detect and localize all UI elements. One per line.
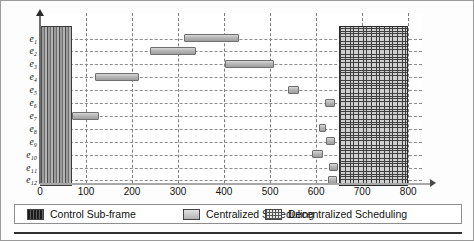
centralized-bar-e6 (325, 99, 335, 107)
plot-area (40, 13, 422, 183)
control-sub-frame-block (40, 26, 72, 186)
y-axis-arrow-icon (36, 9, 44, 16)
legend-entry-0: Control Sub-frame (27, 208, 136, 220)
legend-entry-2: Decentralized Scheduling (265, 208, 407, 220)
figure-frame: 0100200300400500600700800 e₁e₂e₃e₄e₅e₆e₇… (0, 0, 474, 241)
centralized-bar-e2 (150, 47, 196, 55)
centralized-bar-e1 (184, 34, 239, 42)
legend-label-2: Decentralized Scheduling (288, 208, 407, 220)
decentralized-swatch (265, 209, 282, 220)
x-axis-arrow-icon (430, 179, 436, 187)
centralized-bar-e11 (329, 163, 338, 171)
centralized-bar-e8 (319, 124, 326, 132)
y-tick-label-e6: e₆ (15, 98, 37, 108)
y-tick-label-e9: e₉ (15, 137, 37, 147)
y-tick-label-e1: e₁ (15, 34, 37, 44)
centralized-bar-e5 (288, 86, 299, 94)
x-tick-label-100: 100 (78, 186, 95, 197)
y-axis-line (39, 15, 41, 184)
chart-legend: Control Sub-frameCentralized SchedulingD… (14, 204, 462, 224)
bottom-rule (14, 232, 462, 234)
y-tick-label-e5: e₅ (15, 85, 37, 95)
x-tick-label-0: 0 (37, 186, 43, 197)
x-tick-label-300: 300 (170, 186, 187, 197)
x-tick-label-800: 800 (400, 186, 417, 197)
x-tick-label-600: 600 (308, 186, 325, 197)
legend-label-0: Control Sub-frame (50, 208, 136, 220)
centralized-bar-e4 (95, 73, 139, 81)
x-tick-label-200: 200 (124, 186, 141, 197)
x-tick-label-700: 700 (354, 186, 371, 197)
y-tick-label-e10: e₁₀ (15, 150, 37, 160)
control-swatch (27, 209, 44, 220)
centralized-bar-e9 (326, 137, 335, 145)
decentralized-scheduling-block (339, 26, 408, 186)
x-tick-label-500: 500 (262, 186, 279, 197)
centralized-swatch (183, 209, 200, 220)
y-tick-label-e12: e₁₂ (15, 175, 37, 185)
y-tick-label-e11: e₁₁ (15, 163, 37, 173)
y-tick-label-e8: e₈ (15, 124, 37, 134)
x-axis-line (40, 183, 432, 185)
centralized-bar-e3 (225, 60, 274, 68)
y-tick-label-e7: e₇ (15, 111, 37, 121)
x-tick-label-400: 400 (216, 186, 233, 197)
y-tick-label-e3: e₃ (15, 59, 37, 69)
y-tick-label-e2: e₂ (15, 46, 37, 56)
y-tick-label-e4: e₄ (15, 72, 37, 82)
centralized-bar-e7 (72, 112, 99, 120)
centralized-bar-e10 (312, 150, 323, 158)
